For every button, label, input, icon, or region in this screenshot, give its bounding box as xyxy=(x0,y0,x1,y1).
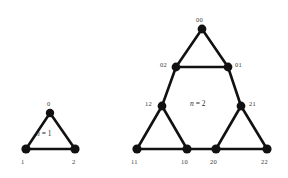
graph-node-22[interactable] xyxy=(262,144,271,153)
order-label-equals: = xyxy=(42,129,46,138)
graph-edge xyxy=(162,67,176,106)
node-label-02: 02 xyxy=(160,62,167,69)
node-group-n2 xyxy=(132,25,271,154)
graph-node-00[interactable] xyxy=(198,25,207,34)
graph-node-01[interactable] xyxy=(224,63,233,72)
node-label-1: 1 xyxy=(21,159,24,166)
graph-node-0[interactable] xyxy=(46,109,54,117)
graph-edge xyxy=(137,106,162,149)
node-label-00: 00 xyxy=(196,17,203,24)
graph-node-1[interactable] xyxy=(21,144,30,153)
node-label-11: 11 xyxy=(131,159,138,166)
graph-node-02[interactable] xyxy=(172,63,181,72)
node-label-2: 2 xyxy=(72,159,75,166)
sierpinski-graph-figure: 012n = 1000201122111102022n = 2 xyxy=(0,0,288,178)
graph-edge xyxy=(241,106,267,149)
graph-edge xyxy=(202,29,228,67)
order-label-equals: = xyxy=(196,99,200,108)
graph-node-12[interactable] xyxy=(158,102,167,111)
graph-edge xyxy=(228,67,241,106)
node-label-0: 0 xyxy=(47,101,50,108)
node-label-01: 01 xyxy=(235,62,242,69)
node-label-22: 22 xyxy=(261,159,268,166)
graph-node-11[interactable] xyxy=(132,144,141,153)
node-label-10: 10 xyxy=(181,159,188,166)
order-label-variable: n xyxy=(190,99,194,108)
order-label-value: 1 xyxy=(48,129,52,138)
graph-node-20[interactable] xyxy=(211,144,220,153)
graph-edge xyxy=(162,106,187,149)
order-label-n1: n = 1 xyxy=(36,130,51,138)
node-label-21: 21 xyxy=(249,101,256,108)
edge-group-n2 xyxy=(137,29,267,149)
graph-edge xyxy=(176,29,202,67)
graph-node-10[interactable] xyxy=(182,144,191,153)
order-label-variable: n xyxy=(36,129,40,138)
graph-node-21[interactable] xyxy=(237,102,246,111)
order-label-n2: n = 2 xyxy=(190,100,205,108)
order-label-value: 2 xyxy=(202,99,206,108)
graph-node-2[interactable] xyxy=(70,144,79,153)
node-label-12: 12 xyxy=(145,101,152,108)
node-label-20: 20 xyxy=(210,159,217,166)
graph-edge xyxy=(50,113,75,149)
graph-edge xyxy=(216,106,241,149)
graph-canvas xyxy=(0,0,288,178)
